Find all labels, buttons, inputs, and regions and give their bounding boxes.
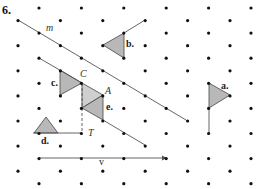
grid-dot [228, 94, 231, 97]
grid-dot [165, 107, 168, 110]
grid-dot [228, 145, 231, 148]
line-b-line [124, 20, 145, 33]
point-label-A: A [104, 85, 112, 96]
grid-dot [144, 44, 147, 47]
grid-dot [249, 157, 252, 160]
grid-dot [207, 182, 210, 185]
grid-dot [228, 170, 231, 173]
grid-dot [144, 119, 147, 122]
grid-dot [249, 132, 252, 135]
grid-dot [228, 19, 231, 22]
grid-dot [165, 182, 168, 185]
grid-dot [101, 145, 104, 148]
grid-dot [144, 19, 147, 22]
grid-dot [101, 119, 104, 122]
grid-dot [122, 57, 125, 60]
grid-dot [37, 57, 40, 60]
grid-dot [207, 132, 210, 135]
grid-dot [186, 170, 189, 173]
grid-dot [101, 69, 104, 72]
grid-dot [122, 157, 125, 160]
grid-dot [122, 31, 125, 34]
grid-dot [16, 69, 19, 72]
grid-dot [186, 94, 189, 97]
grid-dot [165, 82, 168, 85]
grid-dot [101, 44, 104, 47]
grid-dot [37, 182, 40, 185]
grid-dot [207, 57, 210, 60]
grid-dot [165, 157, 168, 160]
grid-dot [249, 82, 252, 85]
grid-dot [186, 69, 189, 72]
triangle-b [103, 33, 124, 58]
triangle-c [60, 70, 82, 95]
grid-dot [122, 82, 125, 85]
label-e: e. [106, 101, 113, 112]
grid-dot [144, 69, 147, 72]
grid-dot [249, 31, 252, 34]
grid-dot [122, 6, 125, 9]
grid-dot [59, 19, 62, 22]
grid-dot [80, 182, 83, 185]
grid-dot [186, 145, 189, 148]
label-a: a. [221, 80, 229, 91]
grid-dot [165, 31, 168, 34]
grid-dot [165, 57, 168, 60]
grid-dot [207, 82, 210, 85]
grid-dot [228, 44, 231, 47]
grid-dot [101, 19, 104, 22]
grid-dot [228, 119, 231, 122]
grid-dot [80, 57, 83, 60]
grid-dot [186, 44, 189, 47]
grid-dot [80, 6, 83, 9]
grid-dot [16, 19, 19, 22]
grid-dot [80, 157, 83, 160]
grid-dot [228, 69, 231, 72]
grid-dot [37, 107, 40, 110]
grid-dot [59, 69, 62, 72]
grid-dot [249, 6, 252, 9]
transformation-dot-grid-diagram: 6. a.b.c.d.e.mvCAT [0, 0, 258, 189]
grid-dot [207, 107, 210, 110]
grid-dot [80, 132, 83, 135]
grid-dot [80, 82, 83, 85]
label-c: c. [51, 77, 58, 88]
grid-dot [144, 94, 147, 97]
grid-dot [59, 145, 62, 148]
grid-dot [186, 19, 189, 22]
grid-dot [207, 31, 210, 34]
grid-dot [101, 170, 104, 173]
grid-dot [16, 145, 19, 148]
grid-dot [101, 94, 104, 97]
grid-dot [207, 6, 210, 9]
grid-dot [186, 119, 189, 122]
grid-dot [122, 132, 125, 135]
grid-dot [16, 119, 19, 122]
grid-dot [37, 31, 40, 34]
grid-dot [165, 132, 168, 135]
grid-dot [144, 170, 147, 173]
label-line-m: m [46, 22, 53, 33]
grid-dot [16, 94, 19, 97]
grid-dot [249, 57, 252, 60]
label-b: b. [126, 38, 135, 49]
grid-dot [16, 170, 19, 173]
grid-dot [59, 170, 62, 173]
grid-dot [122, 107, 125, 110]
grid-dot [207, 157, 210, 160]
grid-dot [59, 44, 62, 47]
grid-dot [249, 182, 252, 185]
triangle-d [34, 117, 58, 133]
labels: 6. a.b.c.d.e.mvCAT [2, 3, 229, 167]
grid-dot [37, 82, 40, 85]
grid-dot [165, 6, 168, 9]
grid-dot [144, 145, 147, 148]
problem-number: 6. [2, 3, 11, 17]
point-label-T: T [88, 127, 95, 138]
label-line-v: v [99, 156, 104, 167]
label-d: d. [41, 135, 50, 146]
grid-dot [59, 94, 62, 97]
grid-dot [80, 107, 83, 110]
grid-dot [37, 6, 40, 9]
grid-dot [16, 44, 19, 47]
